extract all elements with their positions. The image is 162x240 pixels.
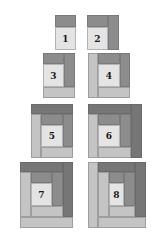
- block-center: 7: [31, 183, 52, 206]
- block-center: 5: [41, 125, 63, 147]
- fabric-strip: [20, 162, 63, 172]
- fabric-strip: [98, 147, 131, 158]
- fabric-strip: [63, 162, 73, 217]
- block-number: 8: [113, 190, 119, 200]
- block-center: 4: [98, 64, 120, 87]
- fabric-strip: [31, 104, 73, 114]
- fabric-strip: [98, 53, 120, 64]
- fabric-strip: [131, 104, 142, 158]
- block-number: 7: [38, 190, 44, 200]
- fabric-strip: [109, 206, 135, 217]
- block-center: 6: [98, 125, 120, 147]
- fabric-strip: [98, 162, 135, 172]
- fabric-strip: [31, 172, 52, 183]
- fabric-strip: [124, 172, 135, 206]
- fabric-strip: [108, 15, 119, 50]
- fabric-strip: [63, 114, 73, 147]
- fabric-strip: [55, 15, 76, 27]
- block-number: 6: [106, 131, 112, 141]
- block-number: 4: [106, 71, 112, 81]
- fabric-strip: [98, 87, 130, 98]
- fabric-strip: [135, 162, 146, 217]
- fabric-strip: [31, 114, 41, 158]
- fabric-strip: [43, 87, 75, 98]
- fabric-strip: [88, 104, 131, 114]
- fabric-strip: [87, 15, 108, 27]
- fabric-strip: [43, 53, 64, 64]
- fabric-strip: [20, 172, 31, 217]
- fabric-strip: [98, 217, 146, 228]
- fabric-strip: [52, 172, 63, 206]
- block-number: 3: [50, 71, 56, 81]
- fabric-strip: [88, 53, 98, 98]
- block-number: 2: [94, 34, 100, 44]
- block-number: 1: [62, 34, 68, 44]
- fabric-strip: [64, 53, 75, 87]
- fabric-strip: [109, 172, 124, 183]
- block-number: 5: [49, 131, 55, 141]
- block-center: 1: [55, 27, 76, 50]
- fabric-strip: [120, 53, 130, 87]
- fabric-strip: [98, 114, 120, 125]
- fabric-strip: [120, 114, 131, 147]
- block-center: 8: [109, 183, 124, 206]
- fabric-strip: [41, 114, 63, 125]
- block-center: 3: [43, 64, 64, 87]
- fabric-strip: [20, 217, 73, 228]
- fabric-strip: [98, 172, 109, 217]
- fabric-strip: [41, 147, 73, 158]
- fabric-strip: [88, 114, 98, 158]
- block-center: 2: [87, 27, 108, 50]
- fabric-strip: [31, 206, 63, 217]
- fabric-strip: [88, 162, 98, 228]
